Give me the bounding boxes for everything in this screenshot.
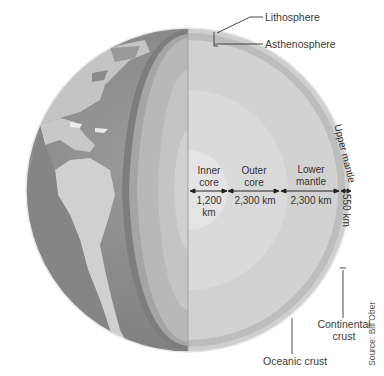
asthenosphere-label: Asthenosphere <box>265 38 336 50</box>
cut-face <box>188 28 350 352</box>
outer-core-thickness: 2,300 km <box>228 195 282 207</box>
upper-mantle-thickness: 550 km <box>341 194 352 227</box>
outer-core-label: Outer core <box>234 165 274 188</box>
inner-core-label: Inner core <box>191 165 227 188</box>
oceanic-crust-label: Oceanic crust <box>263 355 327 367</box>
earth-layers-diagram: Lithosphere Asthenosphere Inner core 1,2… <box>0 0 384 376</box>
lower-mantle-thickness: 2,300 km <box>284 195 338 207</box>
lower-mantle-label: Lower mantle <box>288 164 334 187</box>
inner-core-thickness: 1,200 km <box>191 195 227 218</box>
lithosphere-label: Lithosphere <box>265 11 320 23</box>
source-credit: Source: Bill Ober <box>367 302 377 366</box>
